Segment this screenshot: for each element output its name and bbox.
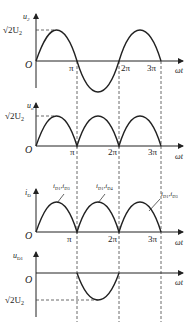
svg-text:3π: 3π bbox=[148, 234, 158, 244]
y-label: u2 bbox=[23, 12, 30, 22]
panel-uo: uo √2U2 O π 2π 3π ωt bbox=[5, 101, 184, 161]
svg-text:ωt: ωt bbox=[175, 66, 184, 75]
svg-text:π: π bbox=[70, 147, 75, 157]
diode-voltage-wave bbox=[77, 273, 119, 300]
annotation-iD1-iD3: iD1,iD3 bbox=[53, 182, 70, 191]
origin-label: O bbox=[25, 59, 32, 70]
origin-label: O bbox=[25, 144, 32, 155]
guide-lines bbox=[77, 61, 161, 322]
svg-text:3π: 3π bbox=[147, 63, 157, 73]
annotation-iD1-iD4: iD1,iD4 bbox=[96, 182, 113, 191]
peak-label: √2U2 bbox=[3, 25, 22, 36]
panel-u2: u2 √2U2 O π 2π 3π ωt bbox=[3, 12, 184, 92]
panel-iD: iD O π 2π 3π ωt iD1,iD3 iD1,iD4 iD1,iD3 bbox=[25, 182, 184, 247]
y-label: iD bbox=[25, 188, 31, 198]
trough-label: √2U2 bbox=[5, 295, 24, 306]
peak-label: √2U2 bbox=[5, 111, 24, 122]
panel-uD1: uD1 O √2U2 ωt bbox=[5, 251, 184, 317]
origin-label: O bbox=[25, 230, 32, 241]
rectifier-waveform-diagram: u2 √2U2 O π 2π 3π ωt uo √2U2 O π 2π 3π ω… bbox=[0, 0, 193, 329]
svg-text:π: π bbox=[69, 63, 74, 73]
svg-text:ωt: ωt bbox=[175, 152, 184, 161]
svg-text:2π: 2π bbox=[108, 234, 118, 244]
origin-label: O bbox=[25, 274, 32, 285]
svg-text:π: π bbox=[67, 234, 72, 244]
svg-text:2π: 2π bbox=[108, 147, 118, 157]
svg-text:ωt: ωt bbox=[175, 238, 184, 247]
svg-text:ωt: ωt bbox=[175, 278, 184, 287]
y-label: uD1 bbox=[13, 251, 24, 261]
rectified-wave bbox=[36, 116, 161, 146]
diode-current-wave bbox=[36, 202, 161, 232]
y-label: uo bbox=[27, 101, 34, 111]
svg-text:2π: 2π bbox=[121, 63, 131, 73]
svg-text:3π: 3π bbox=[148, 147, 158, 157]
annotation-iD1-iD3-right: iD1,iD3 bbox=[161, 190, 178, 199]
